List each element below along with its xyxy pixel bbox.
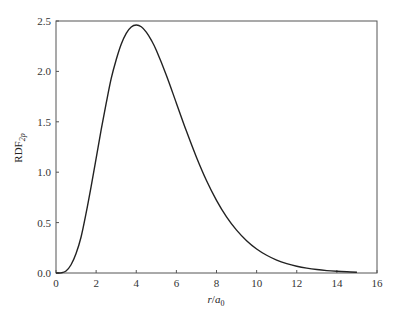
x-tick-label: 14 [331,277,343,289]
x-tick-label: 6 [174,277,180,289]
y-tick-label: 2.5 [37,15,51,27]
x-tick-label: 4 [134,277,140,289]
x-tick-label: 10 [251,277,263,289]
y-tick-label: 0.5 [37,217,51,229]
y-tick-label: 2.0 [37,65,51,77]
axis-tick-labels: 02468101214160.00.51.01.52.02.5 [37,15,383,289]
rdf-chart: 02468101214160.00.51.01.52.02.5 r/a0 RDF… [0,0,400,319]
x-tick-label: 12 [291,277,302,289]
y-tick-label: 1.5 [37,116,51,128]
plot-border [56,21,377,273]
x-tick-label: 16 [372,277,384,289]
x-tick-label: 0 [53,277,59,289]
x-axis-label: r/a0 [208,293,225,308]
y-axis-label: RDF2p [12,133,27,162]
y-tick-label: 1.0 [37,166,51,178]
y-tick-label: 0.0 [37,267,51,279]
axis-ticks [56,21,377,273]
rdf-curve [56,25,357,273]
x-tick-label: 2 [93,277,99,289]
plot-frame [56,21,377,273]
x-tick-label: 8 [214,277,220,289]
